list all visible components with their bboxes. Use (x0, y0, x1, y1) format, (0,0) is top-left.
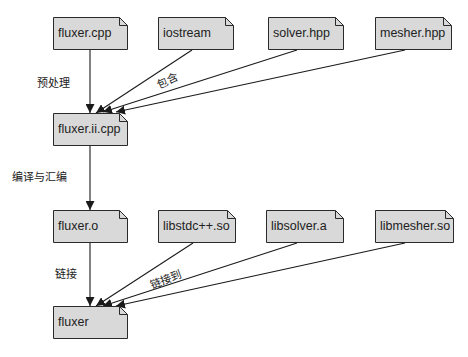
node-label: libmesher.so (380, 210, 450, 243)
node-label: fluxer (58, 306, 89, 339)
node-label: fluxer.ii.cpp (58, 113, 121, 146)
edges-layer (0, 0, 468, 357)
node-fluxer-ii-cpp: fluxer.ii.cpp (53, 113, 128, 146)
node-fluxer: fluxer (53, 306, 128, 339)
node-fluxer-cpp: fluxer.cpp (53, 17, 128, 50)
node-label: solver.hpp (273, 17, 330, 50)
node-label: mesher.hpp (380, 17, 445, 50)
node-label: fluxer.cpp (58, 17, 112, 50)
edge-label-preprocess: 预处理 (37, 74, 70, 90)
node-libsolver-a: libsolver.a (266, 210, 344, 243)
node-label: fluxer.o (58, 210, 98, 243)
node-fluxer-o: fluxer.o (53, 210, 128, 243)
edge-include-solver (103, 50, 297, 112)
node-label: iostream (163, 17, 211, 50)
node-solver-hpp: solver.hpp (268, 17, 344, 50)
edge-label-compile-assemble: 编译与汇编 (12, 168, 67, 184)
node-libstdcpp-so: libstdc++.so (158, 210, 236, 243)
node-label: libsolver.a (271, 210, 327, 243)
edge-label-link: 链接 (55, 265, 77, 281)
node-libmesher-so: libmesher.so (375, 210, 454, 243)
edge-link-libsolver (103, 243, 297, 306)
node-label: libstdc++.so (163, 210, 230, 243)
node-mesher-hpp: mesher.hpp (375, 17, 452, 50)
node-iostream: iostream (158, 17, 234, 50)
